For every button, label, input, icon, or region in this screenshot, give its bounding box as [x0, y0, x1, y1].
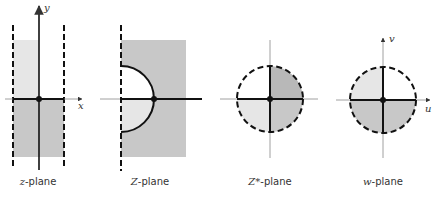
- w-plane-label: w-plane: [363, 176, 403, 187]
- z-plane-panel: [5, 6, 82, 170]
- Zstar-plane-label: Z*-plane: [248, 176, 291, 187]
- z-origin-dot: [36, 96, 42, 102]
- w-plane-panel: [336, 38, 430, 158]
- w-plane-label-var: w: [363, 176, 372, 187]
- z-upper-left-region: [13, 40, 39, 99]
- Zstar-plane-label-var: Z*: [248, 176, 260, 187]
- z-plane-label: z-plane: [20, 176, 57, 187]
- Z-plane-label: Z-plane: [131, 176, 169, 187]
- Z-plane-panel: [100, 25, 202, 171]
- conformal-mapping-figure: y x v u z-plane Z-plane Z*-plane w-plane: [0, 0, 435, 198]
- w-v-axis-label: v: [389, 33, 395, 44]
- w-plane-label-suffix: -plane: [372, 176, 403, 187]
- Z-plane-label-suffix: -plane: [138, 176, 169, 187]
- w-u-axis-label: u: [425, 103, 431, 114]
- Z-point-dot: [151, 96, 157, 102]
- z-x-axis-label: x: [78, 100, 84, 111]
- z-plane-label-suffix: -plane: [25, 176, 56, 187]
- Z-plane-label-var: Z: [131, 176, 138, 187]
- Zstar-plane-label-suffix: -plane: [260, 176, 291, 187]
- w-origin-dot: [380, 97, 386, 103]
- Zstar-origin-dot: [267, 96, 273, 102]
- Zstar-plane-panel: [220, 40, 318, 158]
- z-y-axis-label: y: [44, 2, 50, 13]
